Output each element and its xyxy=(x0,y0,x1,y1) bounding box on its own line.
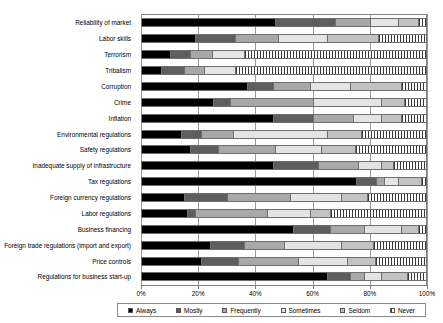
x-axis-label-40: 40% xyxy=(249,289,262,299)
bar-segment-frequently xyxy=(273,82,310,91)
bar-segment-frequently xyxy=(335,18,369,27)
bar-segment-seldom xyxy=(327,34,378,43)
y-axis-label-foreign-currency-regulations: Foreign currency regulations xyxy=(0,193,136,202)
bar-segment-seldom xyxy=(398,18,418,27)
bar-segment-never xyxy=(378,34,427,43)
bar-segment-always xyxy=(141,225,293,234)
bar-segment-seldom xyxy=(327,130,361,139)
bar-segment-seldom xyxy=(341,193,367,202)
bar-segment-sometimes xyxy=(364,225,401,234)
bar-segment-mostly xyxy=(247,82,273,91)
y-axis-labels: Reliability of marketLabor skillsTerrori… xyxy=(0,14,136,286)
y-axis-label-inflation: Inflation xyxy=(0,114,136,123)
bar-segment-sometimes xyxy=(212,50,243,59)
bar-row-tax-regulations xyxy=(141,177,427,186)
bar-row-foreign-currency-regulations xyxy=(141,193,427,202)
y-axis-label-regulations-for-business-start-up: Regulations for business start-up xyxy=(0,272,136,281)
bar-segment-never xyxy=(375,257,426,266)
bar-segment-frequently xyxy=(350,272,364,281)
y-axis-label-labor-skills: Labor skills xyxy=(0,34,136,43)
bar-segment-never xyxy=(404,98,427,107)
bar-row-labor-regulations xyxy=(141,209,427,218)
bar-segment-frequently xyxy=(238,257,298,266)
x-axis-label-60: 60% xyxy=(306,289,319,299)
bar-segment-frequently xyxy=(244,241,284,250)
legend-item-never[interactable]: Never xyxy=(390,307,415,314)
bar-segment-never xyxy=(361,130,427,139)
bar-segment-sometimes xyxy=(358,161,381,170)
bar-segment-always xyxy=(141,18,275,27)
bar-segment-mostly xyxy=(293,225,330,234)
bar-segment-sometimes xyxy=(267,209,310,218)
bar-segment-seldom xyxy=(350,82,401,91)
bar-segment-sometimes xyxy=(313,98,382,107)
bar-segment-never xyxy=(373,241,427,250)
y-axis-label-crime: Crime xyxy=(0,98,136,107)
bar-segment-sometimes xyxy=(364,272,381,281)
bar-segment-always xyxy=(141,272,327,281)
bar-segment-sometimes xyxy=(204,66,235,75)
bar-segment-always xyxy=(141,50,170,59)
y-axis-label-safety-regulations: Safety regulations xyxy=(0,145,136,154)
legend-item-mostly[interactable]: Mostly xyxy=(176,307,202,314)
legend-swatch-icon-mostly xyxy=(176,308,181,313)
bar-segment-never xyxy=(407,272,427,281)
bar-segment-seldom xyxy=(381,114,401,123)
bar-segment-frequently xyxy=(235,34,278,43)
bar-segment-never xyxy=(244,50,427,59)
bar-segment-sometimes xyxy=(278,34,327,43)
y-axis-label-terrorism: Terrorism xyxy=(0,50,136,59)
bar-segment-frequently xyxy=(195,209,267,218)
legend-item-sometimes[interactable]: Sometimes xyxy=(281,307,321,314)
bar-segment-mostly xyxy=(356,177,376,186)
bar-segment-mostly xyxy=(195,34,235,43)
legend-swatch-icon-frequently xyxy=(222,308,227,313)
y-axis-label-price-controls: Price controls xyxy=(0,257,136,266)
bar-segment-always xyxy=(141,98,213,107)
legend-label-frequently: Frequently xyxy=(230,307,260,314)
bar-row-reliability-of-market xyxy=(141,18,427,27)
bar-segment-frequently xyxy=(318,161,358,170)
bar-segment-mostly xyxy=(213,98,230,107)
legend-item-seldom[interactable]: Seldom xyxy=(340,307,370,314)
bar-segment-always xyxy=(141,66,161,75)
legend-item-always[interactable]: Always xyxy=(128,307,156,314)
bar-segment-mostly xyxy=(275,18,335,27)
bar-row-terrorism xyxy=(141,50,427,59)
bar-segment-mostly xyxy=(181,130,201,139)
bar-segment-sometimes xyxy=(284,241,341,250)
bar-segment-sometimes xyxy=(298,257,347,266)
y-axis-label-tax-regulations: Tax regulations xyxy=(0,177,136,186)
bar-row-regulations-for-business-start-up xyxy=(141,272,427,281)
bar-segment-never xyxy=(401,82,427,91)
bar-segment-frequently xyxy=(184,66,204,75)
bar-segment-mostly xyxy=(170,50,190,59)
bar-segment-mostly xyxy=(201,257,238,266)
bar-segment-never xyxy=(355,145,427,154)
y-axis-label-environmental-regulations: Environmental regulations xyxy=(0,130,136,139)
bar-segment-always xyxy=(141,82,247,91)
bar-segment-seldom xyxy=(321,145,355,154)
bar-segment-always xyxy=(141,177,356,186)
bar-segment-never xyxy=(367,193,427,202)
legend-label-sometimes: Sometimes xyxy=(289,307,321,314)
bar-segment-mostly xyxy=(187,209,196,218)
legend-item-frequently[interactable]: Frequently xyxy=(222,307,260,314)
bar-row-crime xyxy=(141,98,427,107)
legend-label-mostly: Mostly xyxy=(184,307,202,314)
bar-segment-sometimes xyxy=(384,177,398,186)
y-axis-label-labor-regulations: Labor regulations xyxy=(0,209,136,218)
x-axis-label-100: 100% xyxy=(419,289,435,299)
bar-row-business-financing xyxy=(141,225,427,234)
bar-segment-mostly xyxy=(161,66,184,75)
bar-row-price-controls xyxy=(141,257,427,266)
bar-segment-always xyxy=(141,241,210,250)
bar-segment-sometimes xyxy=(290,193,341,202)
bar-segment-mostly xyxy=(273,161,319,170)
y-axis-label-reliability-of-market: Reliability of market xyxy=(0,18,136,27)
bar-segment-sometimes xyxy=(353,114,382,123)
bar-row-labor-skills xyxy=(141,34,427,43)
bar-row-inflation xyxy=(141,114,427,123)
bar-segment-mostly xyxy=(273,114,313,123)
bar-segment-frequently xyxy=(376,177,385,186)
